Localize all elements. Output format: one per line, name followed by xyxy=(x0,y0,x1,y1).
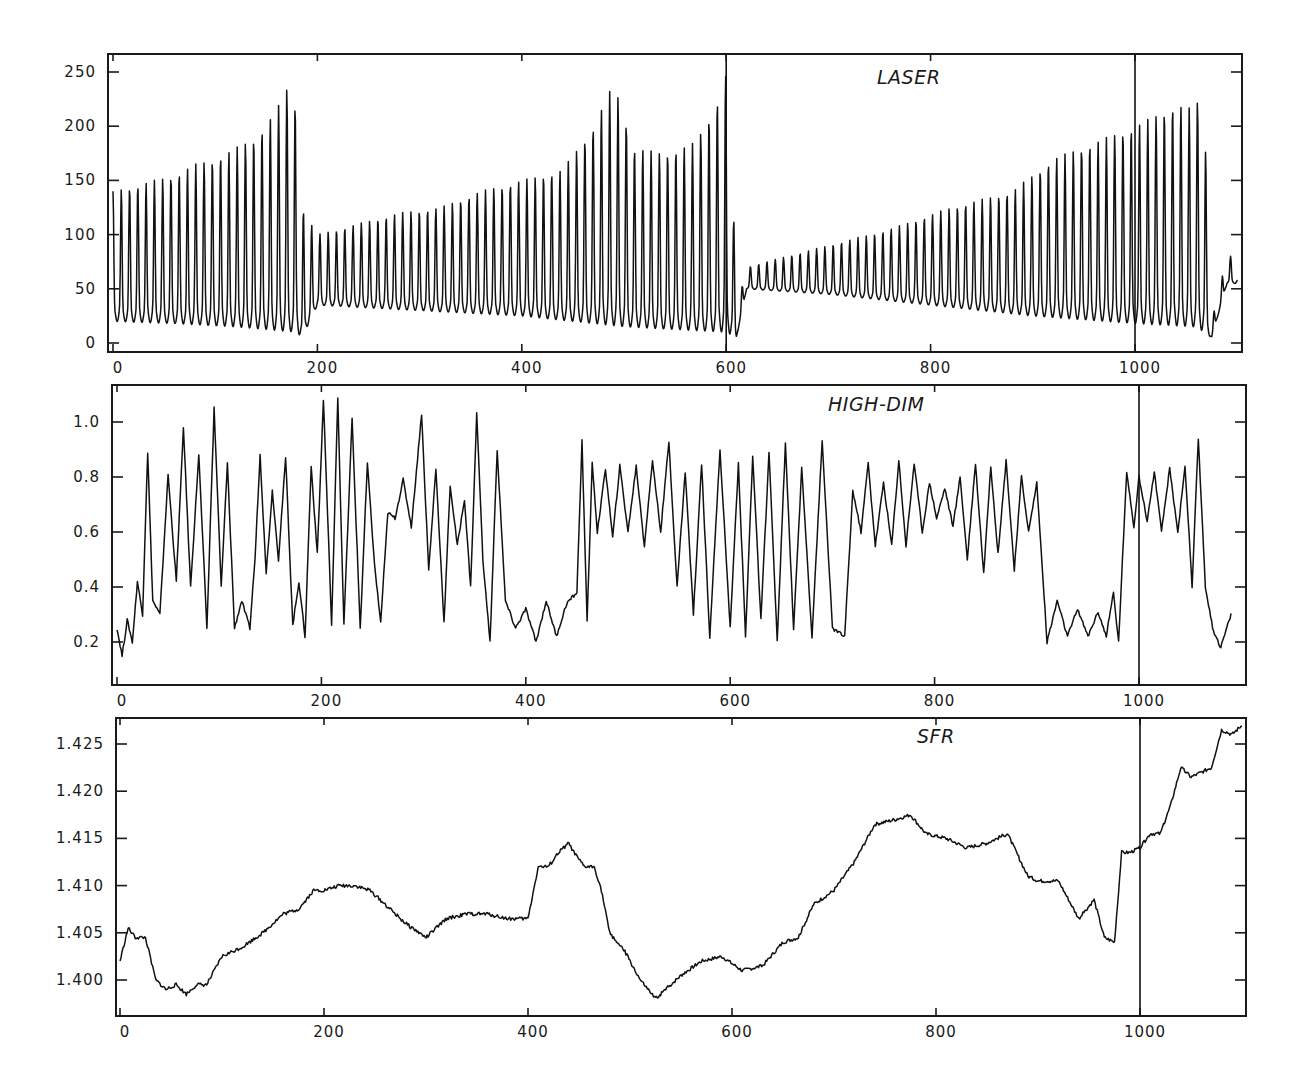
high-dim-x-axis: 02004006008001000 xyxy=(117,385,1165,710)
sfr-panel: 1.4001.4051.4101.4151.4201.425 020040060… xyxy=(56,718,1246,1041)
y-tick-label: 1.0 xyxy=(73,413,100,431)
sfr-series-line xyxy=(120,726,1242,998)
y-tick-label: 0.8 xyxy=(73,468,100,486)
x-tick-label: 800 xyxy=(924,692,956,710)
y-tick-label: 1.420 xyxy=(56,782,104,800)
y-tick-label: 100 xyxy=(64,226,96,244)
x-tick-label: 600 xyxy=(715,359,747,377)
high-dim-series-line xyxy=(117,398,1231,656)
laser-panel: 050100150200250 02004006008001000 LASER xyxy=(64,54,1242,377)
high-dim-panel-title: HIGH-DIM xyxy=(828,393,924,415)
x-tick-label: 200 xyxy=(313,1023,345,1041)
high-dim-panel: 0.20.40.60.81.0 02004006008001000 HIGH-D… xyxy=(73,385,1246,710)
y-tick-label: 1.425 xyxy=(56,735,104,753)
y-tick-label: 0.4 xyxy=(73,578,100,596)
laser-panel-title: LASER xyxy=(877,66,940,88)
x-tick-label: 800 xyxy=(920,359,952,377)
y-tick-label: 0.2 xyxy=(73,633,100,651)
high-dim-plot-frame xyxy=(112,385,1246,685)
high-dim-y-axis: 0.20.40.60.81.0 xyxy=(73,413,1246,651)
y-tick-label: 0.6 xyxy=(73,523,100,541)
sfr-plot-frame xyxy=(116,718,1246,1016)
x-tick-label: 1000 xyxy=(1124,1023,1166,1041)
y-tick-label: 150 xyxy=(64,171,96,189)
x-tick-label: 200 xyxy=(311,692,343,710)
x-tick-label: 0 xyxy=(120,1023,131,1041)
y-tick-label: 200 xyxy=(64,117,96,135)
y-tick-label: 1.410 xyxy=(56,877,104,895)
x-tick-label: 600 xyxy=(721,1023,753,1041)
x-tick-label: 0 xyxy=(113,359,124,377)
sfr-x-axis: 02004006008001000 xyxy=(120,718,1166,1041)
x-tick-label: 1000 xyxy=(1119,359,1161,377)
y-tick-label: 50 xyxy=(75,280,96,298)
x-tick-label: 800 xyxy=(925,1023,957,1041)
x-tick-label: 200 xyxy=(307,359,339,377)
x-tick-label: 0 xyxy=(117,692,128,710)
laser-series-line xyxy=(113,76,1237,336)
x-tick-label: 400 xyxy=(515,692,547,710)
y-tick-label: 1.415 xyxy=(56,829,104,847)
y-tick-label: 1.400 xyxy=(56,971,104,989)
x-tick-label: 400 xyxy=(517,1023,549,1041)
figure: 050100150200250 02004006008001000 LASER … xyxy=(0,0,1295,1086)
sfr-panel-title: SFR xyxy=(917,725,955,747)
x-tick-label: 1000 xyxy=(1123,692,1165,710)
y-tick-label: 0 xyxy=(85,334,96,352)
x-tick-label: 600 xyxy=(719,692,751,710)
y-tick-label: 250 xyxy=(64,63,96,81)
x-tick-label: 400 xyxy=(511,359,543,377)
y-tick-label: 1.405 xyxy=(56,924,104,942)
